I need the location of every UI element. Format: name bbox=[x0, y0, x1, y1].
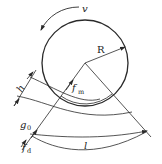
fm-label: f bbox=[71, 82, 78, 93]
h-arrow-bottom bbox=[14, 99, 19, 106]
g0-arc bbox=[30, 131, 147, 137]
l-label: l bbox=[84, 140, 87, 151]
g0-sub: 0 bbox=[27, 124, 31, 132]
fd-sub: d bbox=[27, 147, 31, 155]
fm-sub: m bbox=[78, 88, 84, 96]
radius-label: R bbox=[97, 44, 105, 55]
roll-bite-diagram: v R f m h g 0 f d l bbox=[0, 0, 162, 164]
velocity-arrow bbox=[41, 7, 79, 30]
g0-label: g bbox=[20, 119, 26, 130]
h-label: h bbox=[14, 83, 27, 94]
radius-arrow bbox=[85, 47, 125, 63]
velocity-label: v bbox=[82, 3, 88, 14]
l-arc bbox=[32, 132, 146, 150]
